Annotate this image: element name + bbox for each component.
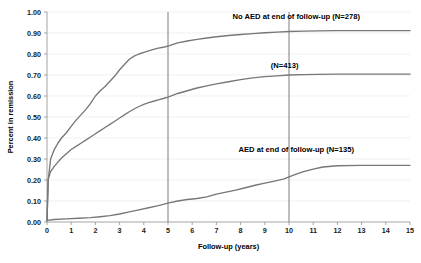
y-tick-label: 0.10 xyxy=(27,197,41,206)
series-label-2: AED at end of follow-up (N=135) xyxy=(239,145,355,154)
y-tick-label: 0.80 xyxy=(27,50,41,59)
x-tick-label: 11 xyxy=(309,226,317,235)
x-tick-label: 6 xyxy=(190,226,194,235)
y-tick-label: 0.90 xyxy=(27,29,41,38)
y-tick-label: 0.40 xyxy=(27,134,41,143)
y-tick-label: 0.50 xyxy=(27,113,41,122)
x-tick-label: 1 xyxy=(69,226,73,235)
x-tick-label: 12 xyxy=(333,226,341,235)
y-tick-label: 0.00 xyxy=(27,218,41,227)
x-tick-label: 14 xyxy=(382,226,390,235)
x-tick-label: 4 xyxy=(142,226,146,235)
x-tick-label: 2 xyxy=(93,226,97,235)
x-tick-label: 0 xyxy=(45,226,49,235)
x-tick-label: 13 xyxy=(358,226,366,235)
y-tick-label: 0.70 xyxy=(27,71,41,80)
y-tick-label: 0.30 xyxy=(27,155,41,164)
y-tick-label: 0.20 xyxy=(27,176,41,185)
y-tick-label: 1.00 xyxy=(27,8,41,17)
y-tick-label: 0.60 xyxy=(27,92,41,101)
chart-container: 0.000.100.200.300.400.500.600.700.800.90… xyxy=(0,0,421,263)
x-tick-label: 9 xyxy=(263,226,267,235)
series-label-0: No AED at end of follow-up (N=278) xyxy=(233,12,361,21)
x-axis-title: Follow-up (years) xyxy=(198,242,260,251)
series-label-1: (N=413) xyxy=(271,61,299,70)
x-tick-label: 7 xyxy=(214,226,218,235)
x-tick-label: 10 xyxy=(285,226,293,235)
y-axis-title: Percent in remission xyxy=(6,80,15,153)
x-tick-label: 3 xyxy=(118,226,122,235)
x-tick-label: 5 xyxy=(166,226,170,235)
chart-background xyxy=(0,0,421,263)
x-tick-label: 15 xyxy=(406,226,414,235)
remission-line-chart: 0.000.100.200.300.400.500.600.700.800.90… xyxy=(0,0,421,263)
x-tick-label: 8 xyxy=(239,226,243,235)
